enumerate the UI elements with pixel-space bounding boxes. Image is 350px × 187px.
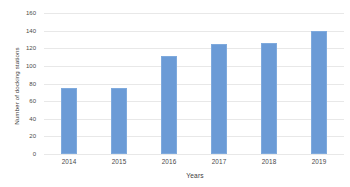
y-tick-label: 80 [6, 81, 36, 87]
gridline [44, 154, 344, 155]
bar-2014 [61, 88, 77, 154]
x-tick-label: 2016 [144, 157, 194, 167]
y-tick-label: 120 [6, 45, 36, 51]
bar-2018 [261, 43, 277, 154]
bar-2019 [311, 31, 327, 154]
y-tick-label: 140 [6, 28, 36, 34]
x-tick-label: 2017 [194, 157, 244, 167]
bar-2017 [211, 44, 227, 154]
x-axis-tick-labels: 201420152016201720182019 [44, 157, 344, 169]
x-tick-label: 2019 [294, 157, 344, 167]
y-tick-label: 60 [6, 98, 36, 104]
y-axis-tick-labels: 020406080100120140160 [0, 13, 40, 154]
y-tick-label: 100 [6, 63, 36, 69]
bar-2016 [161, 56, 177, 154]
y-tick-label: 160 [6, 10, 36, 16]
bar-chart-figure: Number of docking stations 0204060801001… [0, 0, 350, 187]
y-tick-label: 40 [6, 116, 36, 122]
x-tick-label: 2018 [244, 157, 294, 167]
y-tick-label: 0 [6, 151, 36, 157]
x-axis-title: Years [44, 172, 346, 179]
x-tick-label: 2014 [44, 157, 94, 167]
y-tick-label: 20 [6, 133, 36, 139]
bars-group [44, 13, 344, 154]
plot-area [44, 13, 344, 154]
x-tick-label: 2015 [94, 157, 144, 167]
bar-2015 [111, 88, 127, 154]
